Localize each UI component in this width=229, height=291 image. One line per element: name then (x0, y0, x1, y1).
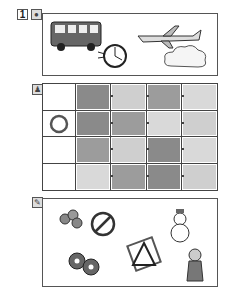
forest-icon (112, 112, 144, 136)
house-icon (148, 165, 180, 190)
bus-icon (51, 22, 101, 51)
grid-cell-castle (111, 137, 146, 164)
grid-cell-forest (111, 111, 146, 138)
question-number: 1 (17, 9, 28, 20)
airplane-icon (138, 26, 201, 48)
forest-icon (77, 138, 109, 162)
donuts-pair-icon (69, 253, 99, 275)
grid-cell-house (76, 84, 111, 111)
circle-mark-icon (51, 116, 67, 132)
row-label-cell[interactable] (43, 111, 76, 138)
grid-cell-house (147, 137, 182, 164)
castle-icon (183, 112, 216, 136)
clock-icon (98, 45, 126, 67)
picture-panel-1 (42, 13, 218, 76)
picture-set (43, 199, 217, 286)
circle-badge-icon: ● (31, 9, 42, 20)
grid-cell-forest (111, 164, 146, 191)
house-icon (77, 85, 109, 109)
house-icon (77, 112, 109, 136)
crossed-out-triangle-icon (127, 237, 160, 270)
grid-cell-snow (147, 111, 182, 138)
grid-cell-castle (182, 111, 217, 138)
house-icon (148, 138, 180, 162)
grid-cell-snow (182, 137, 217, 164)
snowman-icon (171, 209, 189, 242)
grid-cell-house (147, 164, 182, 191)
grid-cell-snow (182, 84, 217, 111)
snow-icon (183, 85, 216, 109)
row-label-cell[interactable] (43, 164, 76, 191)
cloud-icon (165, 46, 206, 67)
grid-cell-snow (76, 164, 111, 191)
sequence-grid (42, 83, 218, 191)
grid-cell-castle (111, 84, 146, 111)
picture-set (43, 14, 217, 75)
row-label-cell[interactable] (43, 84, 76, 111)
donuts-icon (60, 210, 82, 228)
grid-cell-castle (182, 164, 217, 191)
castle-icon (112, 138, 144, 162)
castle-icon (183, 165, 216, 190)
grid-cell-forest (76, 137, 111, 164)
grid-cell-house (76, 111, 111, 138)
forest-icon (112, 165, 144, 190)
girl-icon (187, 249, 203, 281)
snow-icon (183, 138, 216, 162)
picture-panel-3 (42, 198, 218, 287)
snow-icon (77, 165, 109, 190)
snow-icon (148, 112, 180, 136)
crossed-out-fruit-icon (92, 213, 114, 235)
row-label-cell[interactable] (43, 137, 76, 164)
grid-cell-forest (147, 84, 182, 111)
castle-icon (112, 85, 144, 109)
forest-icon (148, 85, 180, 109)
